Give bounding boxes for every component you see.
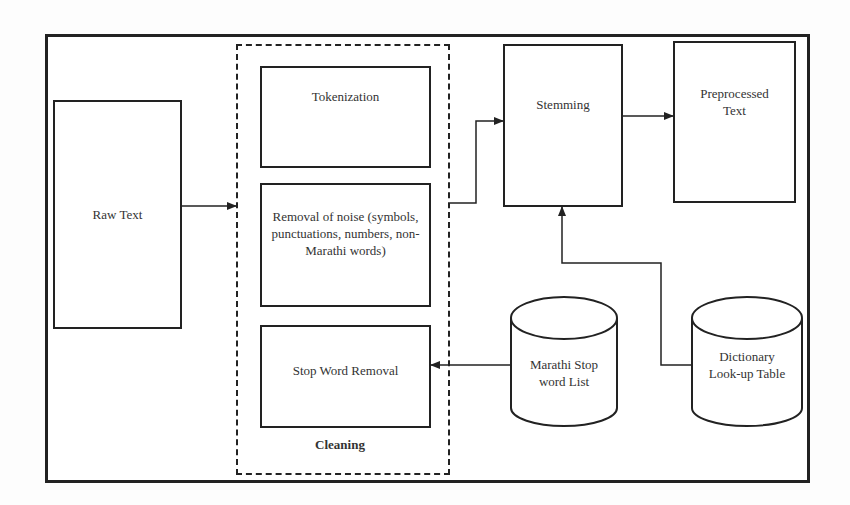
- connectors-layer: [0, 0, 850, 505]
- dictionary-label: Dictionary Look-up Table: [707, 348, 787, 382]
- stop-word-list-label: Marathi Stop word List: [516, 356, 612, 390]
- arrow-cleaning-to-stemming: [450, 121, 503, 203]
